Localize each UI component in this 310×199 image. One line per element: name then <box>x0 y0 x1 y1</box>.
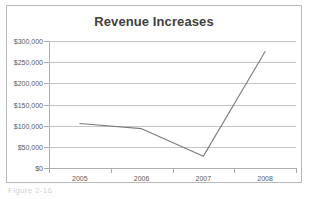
x-axis-tick-label: 2007 <box>196 175 212 182</box>
y-axis-tick-label: $0 <box>7 165 43 172</box>
y-axis-tick-label: $250,000 <box>7 59 43 66</box>
figure-caption: Figure 2-16 <box>8 186 52 195</box>
x-axis-tick-label: 2006 <box>134 175 150 182</box>
y-axis-tick-label: $200,000 <box>7 80 43 87</box>
y-axis-tick-label: $50,000 <box>7 143 43 150</box>
x-axis-tick <box>296 168 297 173</box>
gridline <box>49 168 296 169</box>
x-axis-tick-label: 2005 <box>72 175 88 182</box>
x-axis-tick-label: 2008 <box>257 175 273 182</box>
chart-frame: Revenue Increases $0$50,000$100,000$150,… <box>6 5 302 183</box>
chart-title: Revenue Increases <box>7 14 301 29</box>
y-axis-labels: $0$50,000$100,000$150,000$200,000$250,00… <box>7 6 43 182</box>
y-axis-tick-label: $100,000 <box>7 122 43 129</box>
revenue-line-series <box>49 41 296 168</box>
revenue-line-path <box>80 52 265 157</box>
y-axis-tick-label: $150,000 <box>7 101 43 108</box>
y-axis-tick-label: $300,000 <box>7 38 43 45</box>
plot-area <box>49 41 296 168</box>
